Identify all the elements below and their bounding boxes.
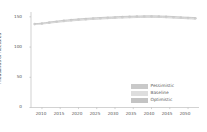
legend-item-baseline[interactable]: Baseline (131, 90, 203, 96)
legend-label-optimistic: Optimistic (151, 98, 173, 102)
legend-item-optimistic[interactable]: Optimistic (131, 97, 203, 103)
legend-item-pessimistic[interactable]: Pessimistic (131, 83, 203, 89)
legend-swatch-baseline (131, 91, 148, 96)
series-lines (33, 15, 196, 25)
chart-canvas (0, 0, 207, 132)
chart-figure: Thousands of hectares 0 50 100 150 2010 … (0, 0, 207, 132)
chart-legend: Pessimistic Baseline Optimistic (131, 83, 203, 103)
legend-swatch-optimistic (131, 98, 148, 103)
legend-label-pessimistic: Pessimistic (151, 84, 175, 88)
legend-label-baseline: Baseline (151, 91, 169, 95)
legend-swatch-pessimistic (131, 84, 148, 89)
